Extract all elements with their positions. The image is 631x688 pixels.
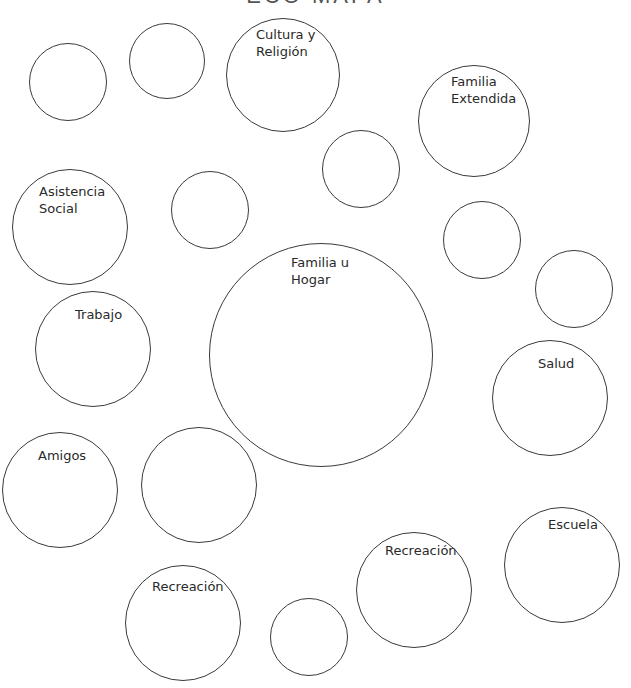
circle-blank-8 [270,598,348,676]
circle-blank-4 [171,171,249,249]
circle-label-familia-extendida: Familia Extendida [451,73,516,107]
circle-label-salud: Salud [538,355,574,372]
circle-blank-3 [322,130,400,208]
circle-label-amigos: Amigos [38,447,86,464]
circle-blank-1 [29,43,107,121]
circle-label-trabajo: Trabajo [75,306,122,323]
circle-label-cultura-religion: Cultura y Religión [256,26,315,60]
circle-label-recreacion-left: Recreación [152,578,224,595]
circle-blank-7 [141,427,257,543]
circle-label-familia-hogar: Familia u Hogar [291,254,349,288]
circle-blank-2 [129,23,205,99]
page-title: ECO MAPA [0,0,631,9]
circle-label-asistencia-social: Asistencia Social [39,183,105,217]
circle-label-escuela: Escuela [548,516,598,533]
eco-map-diagram: ECO MAPA Cultura y ReligiónFamilia Exten… [0,0,631,688]
circle-blank-6 [535,250,613,328]
circle-label-recreacion-right: Recreación [385,542,457,559]
circle-blank-5 [443,201,521,279]
